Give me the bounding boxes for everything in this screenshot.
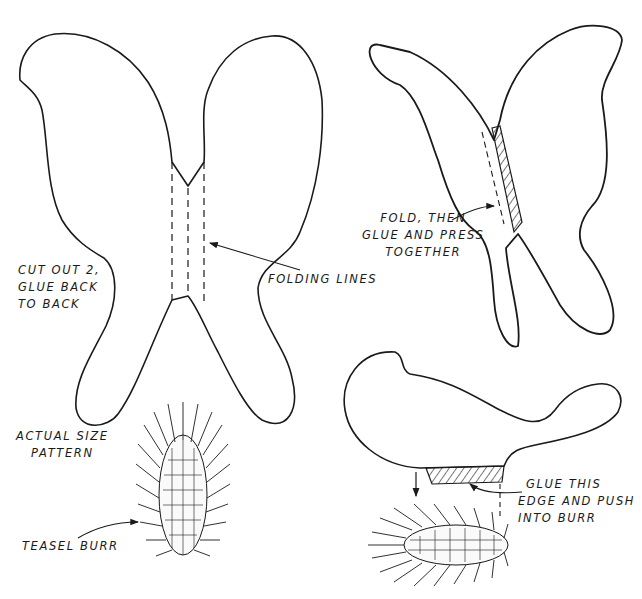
cut-out-line-2: GLUE BACK [18,279,100,296]
glue-edge-line-3: INTO BURR [518,510,635,527]
glue-edge-arrow [470,484,522,493]
teasel-burr-horizontal [368,504,508,586]
cut-out-instruction: CUT OUT 2, GLUE BACK TO BACK [18,262,100,313]
glue-edge-line-2: EDGE AND PUSH [518,493,635,510]
teasel-burr-arrow [78,522,138,538]
actual-size-line-2: PATTERN [16,445,109,462]
butterfly-side [344,352,621,468]
teasel-burr-upright [136,402,230,556]
glue-edge-hatched [426,466,504,484]
cut-out-line-3: TO BACK [18,296,100,313]
cut-out-line-1: CUT OUT 2, [18,262,100,279]
actual-size-label: ACTUAL SIZE PATTERN [16,428,109,462]
glue-area-hatched-fold [492,126,522,232]
folding-lines-label: FOLDING LINES [268,271,377,288]
butterfly-folded [370,26,622,347]
glue-edge-line-1: GLUE THIS [518,476,635,493]
folding-lines-text: FOLDING LINES [268,271,377,288]
teasel-burr-text: TEASEL BURR [22,538,119,555]
fold-then-instruction: FOLD, THEN GLUE AND PRESS TOGETHER [362,210,484,261]
teasel-burr-label: TEASEL BURR [22,538,119,555]
fold-then-line-2: GLUE AND PRESS [362,227,484,244]
glue-edge-instruction: GLUE THIS EDGE AND PUSH INTO BURR [518,476,635,527]
butterfly-pattern-flat [20,34,323,426]
folding-lines [172,162,204,302]
fold-then-line-3: TOGETHER [362,244,484,261]
fold-then-line-1: FOLD, THEN [362,210,484,227]
folding-lines-arrow [210,243,300,270]
actual-size-line-1: ACTUAL SIZE [16,428,109,445]
